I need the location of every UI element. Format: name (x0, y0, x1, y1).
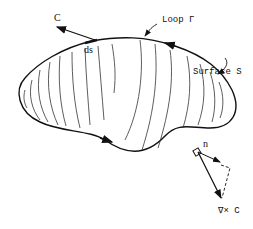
label-ds: ds (84, 45, 93, 55)
label-curl: ∇× C (218, 207, 240, 216)
label-loop: Loop Γ (162, 16, 194, 25)
ds-segment (85, 40, 97, 43)
vector-c-arrow (57, 27, 95, 40)
curl-vector (198, 152, 221, 198)
loop-leader (145, 24, 157, 36)
label-vector-c: C (54, 13, 61, 23)
projection-dashed (221, 165, 230, 198)
normal-vector (198, 152, 220, 162)
stokes-diagram: C ds Loop Γ Surface S n ∇× C (0, 0, 253, 229)
label-normal: n (203, 139, 208, 149)
label-surface: Surface S (193, 68, 242, 77)
diagram-graphics (0, 0, 253, 229)
surface-hatching (24, 40, 223, 150)
loop-arrow-top (165, 43, 175, 46)
